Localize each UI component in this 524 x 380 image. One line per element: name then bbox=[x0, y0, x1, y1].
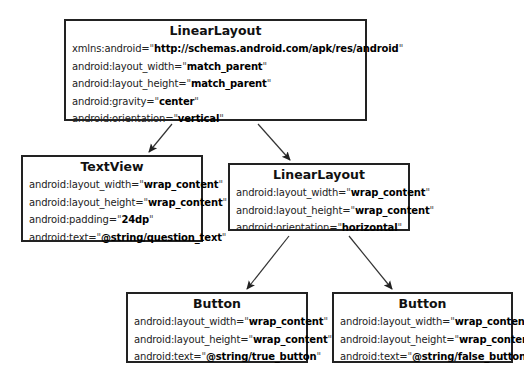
edge-inner-layout-to-false-button bbox=[349, 236, 392, 289]
node-title: Button bbox=[134, 296, 300, 312]
node-textview: TextView android:layout_width="wrap_cont… bbox=[21, 155, 203, 242]
attribute-row: android:padding="24dp" bbox=[29, 211, 195, 229]
attribute-row: android:layout_width="wrap_content" bbox=[29, 176, 195, 194]
node-inner-linearlayout: LinearLayout android:layout_width="wrap_… bbox=[228, 163, 410, 231]
node-title: Button bbox=[340, 296, 505, 312]
attribute-key: android:layout_height= bbox=[340, 334, 454, 345]
attribute-key: android:layout_height= bbox=[29, 197, 143, 208]
quote: " bbox=[399, 43, 403, 54]
edge-root-to-inner-layout bbox=[258, 124, 290, 160]
attribute-key: android:layout_width= bbox=[340, 316, 450, 327]
attribute-key: android:layout_height= bbox=[72, 78, 186, 89]
attribute-value: 24dp bbox=[121, 214, 149, 225]
attribute-value: match_parent bbox=[187, 61, 263, 72]
node-title: LinearLayout bbox=[236, 167, 402, 183]
quote: " bbox=[222, 232, 226, 243]
attribute-value: horizontal bbox=[342, 222, 398, 233]
attribute-key: android:gravity= bbox=[72, 96, 154, 107]
quote: " bbox=[218, 179, 222, 190]
attribute-row: android:text="@string/true_button" bbox=[134, 348, 300, 366]
attribute-key: android:text= bbox=[29, 232, 96, 243]
quote: " bbox=[219, 113, 223, 124]
quote: " bbox=[425, 187, 429, 198]
attribute-row: android:orientation="vertical" bbox=[72, 110, 359, 128]
edge-root-to-textview bbox=[149, 124, 172, 152]
attribute-value: wrap_content bbox=[459, 334, 524, 345]
attribute-key: xmlns:android= bbox=[72, 43, 150, 54]
attribute-value: @string/question_text bbox=[101, 232, 222, 243]
attribute-key: android:layout_width= bbox=[72, 61, 182, 72]
attribute-key: android:text= bbox=[340, 351, 407, 362]
attribute-value: @string/false_button bbox=[412, 351, 524, 362]
attribute-row: android:layout_width="match_parent" bbox=[72, 58, 359, 76]
node-false-button: Button android:layout_width="wrap_conten… bbox=[332, 292, 513, 363]
attribute-key: android:layout_width= bbox=[134, 316, 244, 327]
attribute-value: @string/true_button bbox=[206, 351, 317, 362]
attribute-row: android:layout_width="wrap_content" bbox=[134, 313, 300, 331]
attribute-value: wrap_content bbox=[455, 316, 524, 327]
quote: " bbox=[194, 96, 198, 107]
quote: " bbox=[323, 316, 327, 327]
attribute-row: android:layout_width="wrap_content" bbox=[340, 313, 505, 331]
attribute-row: xmlns:android="http://schemas.android.co… bbox=[72, 40, 359, 58]
attribute-row: android:layout_height="wrap_content" bbox=[236, 202, 402, 220]
node-true-button: Button android:layout_width="wrap_conten… bbox=[126, 292, 308, 363]
quote: " bbox=[267, 78, 271, 89]
attribute-value: vertical bbox=[178, 113, 219, 124]
attribute-value: http://schemas.android.com/apk/res/andro… bbox=[154, 43, 399, 54]
edge-inner-layout-to-true-button bbox=[247, 236, 289, 289]
attribute-row: android:text="@string/false_button" bbox=[340, 348, 505, 366]
attribute-row: android:layout_height="match_parent" bbox=[72, 75, 359, 93]
attribute-value: center bbox=[159, 96, 194, 107]
attribute-row: android:layout_height="wrap_content" bbox=[29, 194, 195, 212]
attribute-value: wrap_content bbox=[351, 187, 426, 198]
attribute-key: android:layout_width= bbox=[236, 187, 346, 198]
quote: " bbox=[430, 205, 434, 216]
quote: " bbox=[149, 214, 153, 225]
attribute-row: android:orientation="horizontal" bbox=[236, 219, 402, 237]
attribute-row: android:text="@string/question_text" bbox=[29, 229, 195, 247]
quote: " bbox=[262, 61, 266, 72]
attribute-key: android:padding= bbox=[29, 214, 117, 225]
attribute-value: wrap_content bbox=[249, 316, 324, 327]
quote: " bbox=[397, 222, 401, 233]
attribute-key: android:orientation= bbox=[236, 222, 337, 233]
attribute-row: android:gravity="center" bbox=[72, 93, 359, 111]
attribute-row: android:layout_width="wrap_content" bbox=[236, 184, 402, 202]
quote: " bbox=[317, 351, 321, 362]
attribute-key: android:layout_height= bbox=[134, 334, 248, 345]
node-title: LinearLayout bbox=[72, 23, 359, 39]
attribute-row: android:layout_height="wrap_content" bbox=[134, 331, 300, 349]
attribute-value: wrap_content bbox=[148, 197, 223, 208]
attribute-key: android:text= bbox=[134, 351, 201, 362]
node-root-linearlayout: LinearLayout xmlns:android="http://schem… bbox=[64, 19, 367, 121]
node-title: TextView bbox=[29, 159, 195, 175]
attribute-value: wrap_content bbox=[355, 205, 430, 216]
attribute-value: match_parent bbox=[191, 78, 267, 89]
attribute-value: wrap_content bbox=[144, 179, 219, 190]
attribute-key: android:orientation= bbox=[72, 113, 173, 124]
attribute-key: android:layout_height= bbox=[236, 205, 350, 216]
quote: " bbox=[223, 197, 227, 208]
attribute-value: wrap_content bbox=[253, 334, 328, 345]
attribute-key: android:layout_width= bbox=[29, 179, 139, 190]
attribute-row: android:layout_height="wrap_content" bbox=[340, 331, 505, 349]
